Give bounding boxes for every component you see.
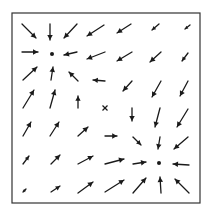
vector-arrow xyxy=(22,49,38,55)
vector-arrow xyxy=(158,177,163,193)
vector-arrow xyxy=(47,24,53,40)
vector-arrow xyxy=(129,108,135,121)
arrowhead-icon xyxy=(64,51,69,56)
arrowhead-icon xyxy=(129,116,135,121)
vector-arrow xyxy=(133,178,146,193)
vector-arrow xyxy=(152,24,159,30)
vector-arrow xyxy=(78,182,93,193)
vector-arrow xyxy=(154,108,160,127)
vector-arrow xyxy=(133,160,146,165)
vector-arrow xyxy=(64,51,77,56)
vector-arrow xyxy=(150,52,161,62)
vector-arrow xyxy=(177,109,188,127)
vector-arrow xyxy=(173,162,189,167)
arrowhead-icon xyxy=(173,162,178,167)
vector-arrow xyxy=(23,122,31,136)
vector-arrow xyxy=(23,189,26,192)
vector-arrow xyxy=(69,72,78,81)
critical-points-group xyxy=(50,52,161,165)
vector-arrow xyxy=(152,81,161,97)
arrowhead-icon xyxy=(156,144,161,149)
vector-arrow xyxy=(23,156,29,164)
vector-arrow xyxy=(123,81,132,91)
vector-arrow xyxy=(175,179,189,193)
arrowhead-icon xyxy=(158,177,163,182)
vector-arrow xyxy=(105,158,124,164)
vector-arrow xyxy=(117,52,132,61)
arrowhead-icon xyxy=(154,121,159,127)
vector-arrow xyxy=(87,25,104,36)
saddle-cross-icon xyxy=(103,106,108,111)
plot-frame xyxy=(12,13,200,203)
arrowhead-icon xyxy=(33,49,38,55)
arrowhead-icon xyxy=(51,90,56,96)
vector-arrow xyxy=(133,137,141,145)
vector-arrow xyxy=(78,156,93,164)
vector-arrow xyxy=(51,155,60,164)
vector-field-diagram xyxy=(0,0,210,215)
vector-arrow xyxy=(75,96,80,108)
vector-arrow xyxy=(23,90,34,108)
vector-arrow xyxy=(50,90,56,108)
vector-arrow xyxy=(117,24,131,33)
arrowhead-icon xyxy=(87,182,93,187)
vector-arrow xyxy=(93,78,105,83)
vector-arrow xyxy=(174,137,188,149)
equilibrium-dot-icon xyxy=(50,52,54,56)
arrowhead-icon xyxy=(118,158,124,163)
arrowhead-icon xyxy=(93,78,98,83)
vector-arrow xyxy=(78,127,88,136)
vector-arrow xyxy=(87,52,105,60)
vector-arrow xyxy=(105,133,117,138)
vector-arrow xyxy=(50,122,59,136)
vector-field-canvas xyxy=(0,0,210,215)
arrowhead-icon xyxy=(75,96,80,101)
vector-arrow xyxy=(64,24,77,38)
vector-arrow xyxy=(185,25,190,29)
vector-arrow xyxy=(156,137,161,149)
vector-arrow xyxy=(51,186,60,192)
vector-arrow xyxy=(23,67,37,80)
vector-arrow xyxy=(180,81,188,96)
arrowhead-icon xyxy=(112,133,117,138)
vector-arrow xyxy=(22,24,36,38)
arrowhead-icon xyxy=(47,35,53,40)
vector-arrow xyxy=(50,67,55,80)
vector-arrow xyxy=(182,53,188,61)
vector-arrow xyxy=(105,180,124,192)
equilibrium-dot-icon xyxy=(157,161,161,165)
